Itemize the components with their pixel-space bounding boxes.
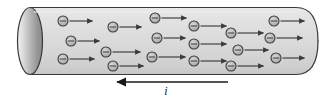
conductor-diagram-canvas: i bbox=[0, 0, 334, 97]
physics-figure-current-in-conductor: i bbox=[0, 0, 334, 97]
conductor-left-face bbox=[18, 8, 43, 75]
conventional-current-indicator: i bbox=[117, 82, 228, 97]
current-label-i: i bbox=[164, 84, 167, 97]
